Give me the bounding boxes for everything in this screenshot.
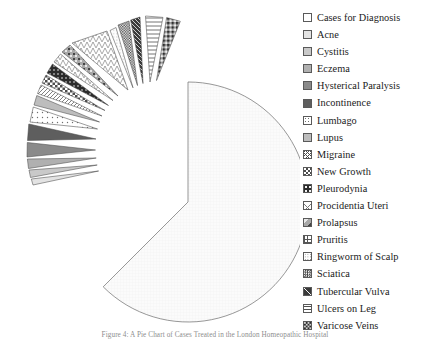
legend-label: Tubercular Vulva <box>317 283 390 300</box>
legend-item-prolapsus[interactable]: Prolapsus <box>303 214 430 231</box>
legend-item-pleurodynia[interactable]: Pleurodynia <box>303 180 430 197</box>
legend-item-cystitis[interactable]: Cystitis <box>303 43 430 60</box>
legend-swatch-zigzag-light <box>303 201 312 210</box>
legend-swatch-solid-lightgray <box>303 30 312 39</box>
legend-item-sciatica[interactable]: Sciatica <box>303 265 430 282</box>
legend-label: Cystitis <box>317 43 349 60</box>
legend-swatch-checker-coarse <box>303 167 312 176</box>
legend-item-procidentia-uteri[interactable]: Procidentia Uteri <box>303 197 430 214</box>
legend-swatch-solid-charcoal <box>303 99 312 108</box>
legend-item-ringworm-of-scalp[interactable]: Ringworm of Scalp <box>303 248 430 265</box>
legend-label: Incontinence <box>317 94 371 111</box>
legend-swatch-solid-gray <box>303 47 312 56</box>
legend-label: Migraine <box>317 146 355 163</box>
legend-item-new-growth[interactable]: New Growth <box>303 163 430 180</box>
pie-chart-area <box>0 0 300 330</box>
legend-item-migraine[interactable]: Migraine <box>303 146 430 163</box>
legend-swatch-gray-corner <box>303 218 312 227</box>
legend-label: Acne <box>317 26 339 43</box>
legend-label: Cases for Diagnosis <box>317 9 400 26</box>
legend-swatch-diagonal-dark <box>303 287 312 296</box>
legend-swatch-dots-fine <box>303 252 312 261</box>
legend: Cases for Diagnosis Acne Cystitis Eczema… <box>303 9 430 334</box>
legend-label: Eczema <box>317 60 350 77</box>
legend-item-eczema[interactable]: Eczema <box>303 60 430 77</box>
legend-label: Procidentia Uteri <box>317 197 388 214</box>
legend-label: Lumbago <box>317 112 357 129</box>
pie-slice-ulcers-on-leg <box>146 16 164 82</box>
legend-item-incontinence[interactable]: Incontinence <box>303 94 430 111</box>
legend-swatch-solid-darkgray <box>303 81 312 90</box>
pie-chart-svg <box>0 0 300 330</box>
legend-swatch-horizontal-lines <box>303 304 312 313</box>
legend-label: Lupus <box>317 129 343 146</box>
pie-slice-cases-for-diagnosis <box>103 82 300 322</box>
legend-item-lupus[interactable]: Lupus <box>303 129 430 146</box>
pie-thin-slices <box>27 16 180 185</box>
legend-swatch-solid-gray2 <box>303 133 312 142</box>
legend-item-cases-for-diagnosis[interactable]: Cases for Diagnosis <box>303 9 430 26</box>
legend-label: Ulcers on Leg <box>317 300 376 317</box>
legend-item-pruritis[interactable]: Pruritis <box>303 231 430 248</box>
legend-label: Sciatica <box>317 265 350 282</box>
legend-item-tubercular-vulva[interactable]: Tubercular Vulva <box>303 283 430 300</box>
legend-item-lumbago[interactable]: Lumbago <box>303 112 430 129</box>
legend-swatch-checker-dense <box>303 269 312 278</box>
legend-label: New Growth <box>317 163 371 180</box>
legend-swatch-dots-sparse <box>303 116 312 125</box>
legend-item-hysterical-paralysis[interactable]: Hysterical Paralysis <box>303 77 430 94</box>
legend-label: Ringworm of Scalp <box>317 248 399 265</box>
legend-label: Pleurodynia <box>317 180 367 197</box>
legend-swatch-solid-midgray <box>303 64 312 73</box>
legend-swatch-solid-white <box>303 13 312 22</box>
legend-item-ulcers-on-leg[interactable]: Ulcers on Leg <box>303 300 430 317</box>
figure-caption: Figure 4: A Pie Chart of Cases Treated i… <box>0 331 430 339</box>
legend-label: Pruritis <box>317 231 348 248</box>
legend-label: Hysterical Paralysis <box>317 77 400 94</box>
legend-swatch-dark-dots <box>303 184 312 193</box>
legend-swatch-checker-mixed <box>303 321 312 330</box>
legend-label: Prolapsus <box>317 214 358 231</box>
pie-chart-figure: Cases for Diagnosis Acne Cystitis Eczema… <box>0 0 430 346</box>
pie-slice-hysterical-paralysis <box>27 143 96 158</box>
legend-item-acne[interactable]: Acne <box>303 26 430 43</box>
legend-swatch-diagonal-crosshatch <box>303 150 312 159</box>
legend-swatch-grid-lines <box>303 235 312 244</box>
